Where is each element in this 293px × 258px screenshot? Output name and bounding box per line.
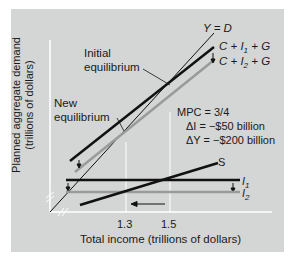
initial-equilibrium-label: Initial equilibrium <box>84 46 140 74</box>
new-eq-text1: New <box>54 96 110 110</box>
y-axis-label: Planned aggregate demand (trillions of d… <box>10 20 36 190</box>
x-axis-label: Total income (trillions of dollars) <box>80 233 241 245</box>
delta-y-label: ΔY = −$200 billion <box>186 134 275 146</box>
i2-sub: 2 <box>245 193 249 202</box>
new-eq-text2: equilibrium <box>54 110 110 124</box>
s-line <box>80 163 218 205</box>
i2-label: I2 <box>242 187 250 204</box>
c-i2-g-pre: C + I <box>219 55 244 67</box>
left-arrow-icon <box>131 202 165 207</box>
initial-eq-text1: Initial <box>84 46 140 60</box>
c-i1-g-post: + G <box>248 40 270 52</box>
initial-eq-text2: equilibrium <box>84 60 140 74</box>
x-tick-1-3: 1.3 <box>117 218 132 230</box>
s-label: S <box>218 156 225 168</box>
c-i2-g-post: + G <box>248 55 270 67</box>
x-tick-1-5: 1.5 <box>161 218 176 230</box>
delta-i-label: ΔI = −$50 billion <box>186 120 265 132</box>
initial-eq-pointer <box>143 69 170 85</box>
y-axis-label-line1: Planned aggregate demand <box>10 20 23 190</box>
new-equilibrium-label: New equilibrium <box>54 96 110 124</box>
mpc-label: MPC = 3/4 <box>177 106 229 118</box>
y-axis-label-line2: (trillions of dollars) <box>23 20 36 190</box>
c-i2-g-label: C + I2 + G <box>219 55 270 72</box>
c-i1-g-pre: C + I <box>219 40 244 52</box>
y-equals-d-label: Y = D <box>203 22 232 34</box>
